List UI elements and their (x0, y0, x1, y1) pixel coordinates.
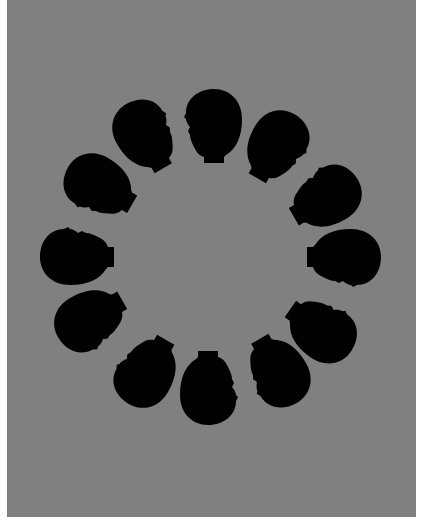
head-silhouette-icon (233, 100, 320, 193)
heads-group (40, 89, 381, 425)
head-silhouette-icon (307, 229, 381, 287)
head-silhouette-icon (180, 351, 238, 425)
head-silhouette-icon (184, 89, 242, 163)
head-silhouette-icon (103, 325, 190, 418)
head-silhouette-icon (279, 154, 372, 241)
head-ring (0, 0, 433, 524)
head-silhouette-icon (40, 227, 114, 285)
head-silhouette-icon (44, 276, 137, 363)
